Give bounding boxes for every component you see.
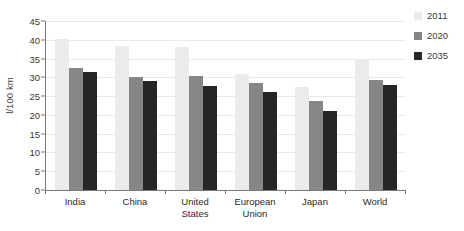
y-axis-tick-45: 45 — [29, 16, 40, 27]
x-axis-tick-mark — [45, 190, 46, 194]
bar-2035 — [203, 86, 217, 190]
legend-item-2011: 2011 — [414, 10, 448, 21]
x-axis-tick-mark — [225, 190, 226, 194]
x-axis-tick-mark — [105, 190, 106, 194]
bar-2011 — [355, 59, 369, 190]
bar-group — [166, 21, 226, 190]
bar-2020 — [369, 80, 383, 190]
legend-label: 2011 — [427, 10, 447, 21]
bar-2020 — [129, 77, 143, 190]
bar-2035 — [83, 72, 97, 190]
y-axis-tick-15: 15 — [29, 128, 40, 139]
y-axis-tick-labels: 051015202530354045 — [18, 21, 45, 190]
x-axis-tick-mark — [345, 190, 346, 194]
bar-2035 — [383, 85, 397, 190]
bar-2011 — [55, 39, 69, 190]
x-axis-tick-mark — [285, 190, 286, 194]
bar-group — [286, 21, 346, 190]
x-axis-label-india: India — [45, 196, 105, 219]
legend-item-2035: 2035 — [414, 50, 448, 61]
legend-item-2020: 2020 — [414, 30, 448, 41]
y-axis-tick-25: 25 — [29, 91, 40, 102]
y-axis-tick-40: 40 — [29, 34, 40, 45]
bar-2020 — [189, 76, 203, 190]
y-axis-tick-5: 5 — [35, 166, 40, 177]
bar-2011 — [295, 87, 309, 190]
x-axis-label-united-states: UnitedStates — [165, 196, 225, 219]
x-axis-label-japan: Japan — [285, 196, 345, 219]
x-axis-label-european-union: EuropeanUnion — [225, 196, 285, 219]
bar-group — [106, 21, 166, 190]
y-axis-tick-35: 35 — [29, 53, 40, 64]
x-axis-label-world: World — [345, 196, 405, 219]
bar-2035 — [323, 111, 337, 190]
bar-group — [226, 21, 286, 190]
y-axis-title-text: l/100 km — [4, 77, 15, 114]
bar-2035 — [143, 81, 157, 190]
x-axis-labels: IndiaChinaUnitedStatesEuropeanUnionJapan… — [45, 196, 405, 219]
plot-area — [45, 21, 406, 191]
bar-2020 — [249, 83, 263, 190]
bar-2011 — [235, 74, 249, 190]
legend-label: 2035 — [427, 50, 448, 61]
bar-chart: l/100 km 051015202530354045 IndiaChinaUn… — [0, 0, 464, 231]
bar-2011 — [175, 47, 189, 190]
bar-2020 — [309, 101, 323, 190]
legend-label: 2020 — [427, 30, 448, 41]
legend-swatch-icon — [414, 12, 422, 20]
bar-group — [346, 21, 406, 190]
y-axis-tick-0: 0 — [35, 185, 40, 196]
bar-2020 — [69, 68, 83, 190]
y-axis-tick-20: 20 — [29, 109, 40, 120]
bar-group — [46, 21, 106, 190]
bar-2011 — [115, 46, 129, 190]
y-axis-tick-10: 10 — [29, 147, 40, 158]
x-axis-tick-mark — [405, 190, 406, 194]
x-axis-tick-mark — [165, 190, 166, 194]
legend-swatch-icon — [414, 32, 422, 40]
bar-2035 — [263, 92, 277, 190]
bars-layer — [46, 21, 406, 190]
legend: 201120202035 — [414, 10, 448, 61]
x-axis-label-china: China — [105, 196, 165, 219]
y-axis-tick-30: 30 — [29, 72, 40, 83]
legend-swatch-icon — [414, 52, 422, 60]
y-axis-title: l/100 km — [0, 0, 18, 190]
